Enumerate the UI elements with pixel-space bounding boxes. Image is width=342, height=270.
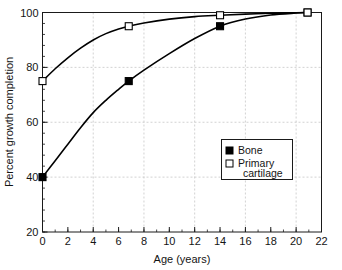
x-axis-tick-label: 4 (90, 235, 96, 247)
data-point-marker-bone (39, 174, 46, 181)
x-axis-tick-label: 20 (290, 235, 302, 247)
x-axis-tick-label: 14 (214, 235, 226, 247)
x-axis-tick-label: 12 (189, 235, 201, 247)
data-point-marker-bone (217, 23, 224, 30)
chart-figure: 0246810121416182022 20406080100 Age (yea… (0, 0, 342, 270)
x-axis-tick-label: 22 (315, 235, 327, 247)
y-axis-tick-label: 40 (26, 171, 38, 183)
x-axis-tick-label: 18 (265, 235, 277, 247)
x-axis-tick-label: 0 (39, 235, 45, 247)
growth-completion-line-chart: 0246810121416182022 20406080100 Age (yea… (0, 0, 342, 270)
data-point-marker-primary-cartilage (304, 9, 311, 16)
y-axis-tick-label: 80 (26, 61, 38, 73)
data-point-marker-primary-cartilage (217, 12, 224, 19)
legend-label-bone: Bone (238, 144, 263, 156)
data-point-marker-primary-cartilage (39, 78, 46, 85)
data-point-marker-bone (125, 78, 132, 85)
chart-background (0, 0, 342, 270)
y-axis-tick-label: 100 (20, 7, 38, 19)
x-axis-tick-label: 6 (116, 235, 122, 247)
y-axis-tick-label: 60 (26, 116, 38, 128)
x-axis-title: Age (years) (154, 253, 211, 265)
x-axis-tick-label: 8 (141, 235, 147, 247)
x-axis-tick-label: 16 (239, 235, 251, 247)
legend-marker-bone-icon (226, 147, 233, 154)
legend-label-primary-cartilage-line2: cartilage (243, 167, 283, 179)
chart-legend[interactable]: Bone Primary cartilage (222, 140, 293, 180)
y-axis-tick-label: 20 (26, 226, 38, 238)
data-point-marker-primary-cartilage (125, 23, 132, 30)
x-axis-tick-label: 2 (65, 235, 71, 247)
x-axis-tick-label: 10 (163, 235, 175, 247)
y-axis-title: Percent growth completion (3, 57, 15, 187)
legend-marker-primary-cartilage-icon (226, 160, 233, 167)
